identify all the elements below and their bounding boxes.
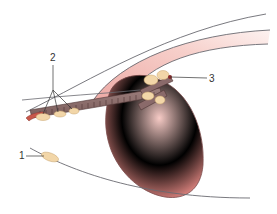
diagram-illustration	[0, 0, 277, 214]
leader-line-3	[170, 77, 207, 78]
callout-label-1: 1	[19, 151, 25, 161]
callout-label-2: 2	[50, 53, 56, 63]
callout-label-3: 3	[209, 74, 215, 84]
anatomical-diagram: 1 2 3	[0, 0, 277, 214]
